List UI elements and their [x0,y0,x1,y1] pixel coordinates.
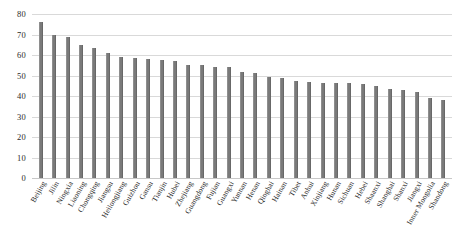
bar[interactable] [133,58,137,178]
x-axis-slot: Hunan [329,180,342,240]
bar-slot [423,14,436,178]
x-axis-slot: Hubei [168,180,181,240]
y-axis: 01020304050607080 [0,14,30,178]
bar[interactable] [428,98,432,178]
x-axis-slot: Anhui [302,180,315,240]
bar-slot [47,14,60,178]
bar[interactable] [347,83,351,178]
bar-slot [249,14,262,178]
bar[interactable] [227,67,231,178]
bar[interactable] [200,65,204,178]
bar-slot [329,14,342,178]
x-axis-slot: Beijing [34,180,47,240]
bar-slot [115,14,128,178]
bar-slot [74,14,87,178]
y-axis-tick-label: 10 [17,153,26,162]
x-axis-slot: Qinghai [262,180,275,240]
bar-slot [88,14,101,178]
x-axis-slot: Hebei [356,180,369,240]
bar[interactable] [401,90,405,178]
bar-slot [182,14,195,178]
bars-layer [32,14,452,178]
bar[interactable] [388,89,392,178]
y-axis-tick-label: 60 [17,51,26,60]
bar-slot [316,14,329,178]
bar-slot [61,14,74,178]
x-axis-slot: Shanghai [383,180,396,240]
bar[interactable] [39,22,43,178]
bar-slot [356,14,369,178]
bar-slot [437,14,450,178]
bar-chart-figure: 01020304050607080 BeijingJilinNingxiaLia… [0,0,458,251]
x-axis-slot: Jilin [47,180,60,240]
y-axis-tick-label: 70 [17,30,26,39]
bar-slot [168,14,181,178]
bar[interactable] [415,92,419,178]
bar-slot [155,14,168,178]
x-axis-slot: Yunnan [235,180,248,240]
bar-slot [276,14,289,178]
y-axis-tick-label: 50 [17,71,26,80]
bar[interactable] [280,78,284,178]
bar[interactable] [66,37,70,178]
x-axis-slot: Tianjin [155,180,168,240]
plot-area [32,14,452,178]
x-axis-slot: Guangxi [222,180,235,240]
bar-slot [208,14,221,178]
bar[interactable] [119,57,123,178]
x-axis: BeijingJilinNingxiaLiaoningChongqingJian… [32,180,452,240]
bar-slot [235,14,248,178]
x-axis-slot: Gansu [141,180,154,240]
bar[interactable] [307,82,311,178]
bar[interactable] [267,77,271,178]
x-axis-slot: Sichuan [343,180,356,240]
bar-slot [34,14,47,178]
y-axis-tick-label: 0 [22,174,26,183]
bar-slot [195,14,208,178]
bar-slot [141,14,154,178]
x-axis-slot: Chongqing [88,180,101,240]
bar-slot [128,14,141,178]
bar-slot [396,14,409,178]
y-axis-tick-label: 30 [17,112,26,121]
bar[interactable] [321,83,325,178]
bar-slot [302,14,315,178]
bar-slot [101,14,114,178]
x-axis-slot: Tibet [289,180,302,240]
bar[interactable] [294,81,298,178]
x-axis-slot: Guizhou [128,180,141,240]
x-axis-slot: Xinjiang [316,180,329,240]
bar-slot [410,14,423,178]
x-axis-tick-label: Beijing [29,180,47,204]
y-axis-tick-label: 20 [17,133,26,142]
bar[interactable] [334,83,338,178]
x-axis-slot: Shandong [437,180,450,240]
bar[interactable] [146,59,150,178]
x-axis-slot: Shaanxi [370,180,383,240]
bar[interactable] [106,53,110,178]
bar[interactable] [253,73,257,178]
bar[interactable] [186,65,190,178]
x-axis-slot: Ningxia [61,180,74,240]
bar[interactable] [92,48,96,178]
bar[interactable] [173,61,177,178]
bar[interactable] [374,86,378,178]
x-axis-slot: Heilongjiang [115,180,128,240]
bar[interactable] [79,45,83,178]
bar-slot [370,14,383,178]
y-axis-tick-label: 80 [17,10,26,19]
bar[interactable] [361,84,365,178]
bar[interactable] [213,67,217,178]
bar[interactable] [160,60,164,178]
bar-slot [343,14,356,178]
bar[interactable] [441,100,445,178]
bar[interactable] [240,72,244,178]
x-axis-slot: Hainan [276,180,289,240]
x-axis-slot: Fujian [208,180,221,240]
x-axis-slot: Shanxi [396,180,409,240]
bar-slot [222,14,235,178]
x-axis-slot: Henan [249,180,262,240]
bar-slot [262,14,275,178]
bar[interactable] [52,35,56,179]
bar-slot [383,14,396,178]
